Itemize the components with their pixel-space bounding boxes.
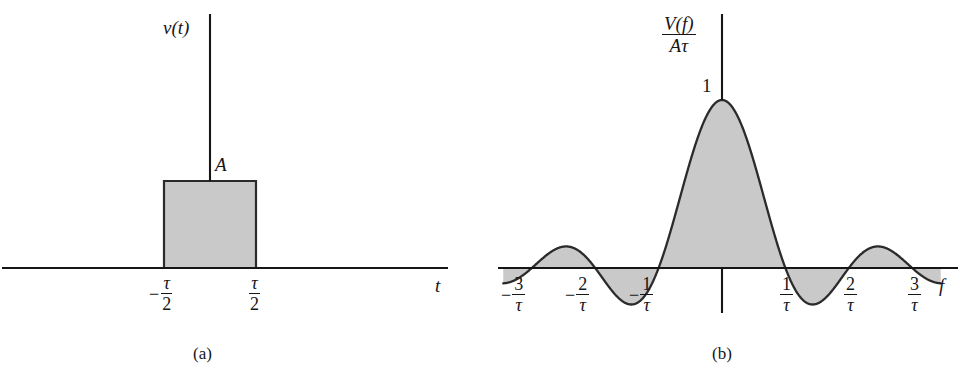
pulse-plot-svg	[0, 0, 484, 377]
fraction-numerator: 1	[780, 275, 793, 295]
fraction-tau-2: τ 2	[248, 274, 261, 314]
minus-sign: −	[629, 286, 639, 304]
fraction-2-tau: 2 τ	[844, 275, 857, 315]
sinc-plot-svg	[484, 0, 968, 377]
fraction-denominator: 2	[248, 294, 261, 313]
minus-sign: −	[149, 285, 159, 303]
peak-value-label: 1	[702, 76, 712, 95]
fraction-3-tau: 3 τ	[512, 275, 525, 315]
fraction-numerator: τ	[161, 274, 171, 294]
fraction-denominator: τ	[577, 295, 587, 314]
panel-a-time-domain: v(t) A t − τ 2 τ 2 (a)	[0, 0, 484, 377]
tick-label-neg-2-over-tau: − 2 τ	[565, 275, 589, 315]
fraction-numerator: 3	[908, 275, 921, 295]
fraction-numerator: 2	[576, 275, 589, 295]
fraction-numerator: τ	[249, 274, 259, 294]
figure-container: v(t) A t − τ 2 τ 2 (a)	[0, 0, 968, 377]
fraction-3-tau: 3 τ	[908, 275, 921, 315]
fraction-denominator: τ	[513, 295, 523, 314]
fraction-denominator: τ	[845, 295, 855, 314]
tick-label-neg-1-over-tau: − 1 τ	[629, 275, 653, 315]
tick-label-3-over-tau: 3 τ	[908, 275, 921, 315]
fraction-numerator: 2	[844, 275, 857, 295]
tick-label-neg-3-over-tau: − 3 τ	[501, 275, 525, 315]
panel-a-x-axis-label: t	[435, 276, 440, 295]
fraction-denominator: 2	[160, 294, 173, 313]
fraction-2-tau: 2 τ	[576, 275, 589, 315]
fraction-numerator: V(f)	[662, 14, 696, 35]
tick-label-2-over-tau: 2 τ	[844, 275, 857, 315]
fraction-denominator: τ	[641, 295, 651, 314]
fraction-1-tau: 1 τ	[780, 275, 793, 315]
fraction-numerator: 1	[640, 275, 653, 295]
panel-b-frequency-domain: V(f) Aτ 1 f − 3 τ − 2 τ	[484, 0, 968, 377]
fraction-numerator: 3	[512, 275, 525, 295]
amplitude-label: A	[215, 155, 227, 174]
fraction-neg-tau-2: τ 2	[160, 274, 173, 314]
pulse-fill-area	[164, 181, 256, 268]
fraction-V-over-Atau: V(f) Aτ	[662, 14, 696, 56]
panel-b-x-axis-label: f	[939, 276, 944, 295]
tick-label-tau-over-2: τ 2	[248, 274, 261, 314]
minus-sign: −	[565, 286, 575, 304]
fraction-1-tau: 1 τ	[640, 275, 653, 315]
panel-b-caption: (b)	[712, 345, 732, 362]
fraction-denominator: τ	[781, 295, 791, 314]
fraction-denominator: Aτ	[668, 35, 690, 55]
tick-label-1-over-tau: 1 τ	[780, 275, 793, 315]
minus-sign: −	[501, 286, 511, 304]
panel-a-caption: (a)	[193, 345, 212, 362]
fraction-denominator: τ	[909, 295, 919, 314]
panel-a-y-axis-label: v(t)	[163, 18, 189, 37]
tick-label-neg-tau-over-2: − τ 2	[149, 274, 173, 314]
panel-b-y-axis-label: V(f) Aτ	[662, 14, 696, 56]
